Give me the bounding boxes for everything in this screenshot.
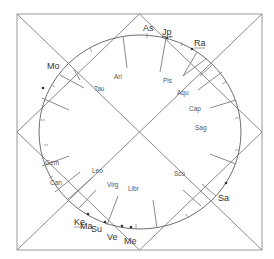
sign-label-virg: Virg	[107, 181, 119, 189]
sign-label-leo: Leo	[92, 167, 103, 174]
sign-label-cap: Cap	[189, 105, 201, 113]
planet-label-sa: Sa	[218, 193, 229, 203]
sign-label-tau: Tau	[94, 85, 105, 92]
astrology-chart: Ari Pis Aqu Cap Sag Tau Gem Can Leo Virg…	[0, 0, 274, 259]
planet-label-jp: Jp	[162, 27, 172, 37]
sign-labels: Ari Pis Aqu Cap Sag Tau Gem Can Leo Virg…	[45, 73, 207, 192]
planet-label-as: As	[143, 23, 154, 33]
sign-label-sag: Sag	[195, 124, 207, 132]
planet-labels: As Jp Ra Mo Sa Ke Ma Su Ve Me	[47, 23, 229, 246]
sign-label-ari: Ari	[114, 73, 122, 80]
sign-label-can: Can	[50, 179, 62, 186]
planet-label-me: Me	[124, 236, 137, 246]
planet-label-ra: Ra	[194, 38, 206, 48]
planet-label-ve: Ve	[107, 232, 118, 242]
sign-label-libr: Libr	[128, 185, 140, 192]
sign-label-pis: Pis	[163, 77, 173, 84]
sign-label-sco: Sco	[174, 170, 186, 177]
sign-label-gem: Gem	[45, 159, 59, 166]
planet-label-mo: Mo	[47, 61, 60, 71]
planet-label-su: Su	[91, 224, 102, 234]
sign-label-aqu: Aqu	[177, 89, 189, 97]
